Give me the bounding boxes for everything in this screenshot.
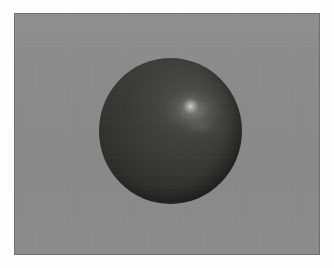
render-viewport-frame bbox=[14, 13, 320, 255]
figure-caption bbox=[14, 257, 320, 267]
sphere bbox=[99, 58, 242, 204]
sphere-rim-shading bbox=[99, 58, 242, 204]
render-figure bbox=[0, 0, 334, 268]
sphere-banding bbox=[99, 58, 242, 204]
